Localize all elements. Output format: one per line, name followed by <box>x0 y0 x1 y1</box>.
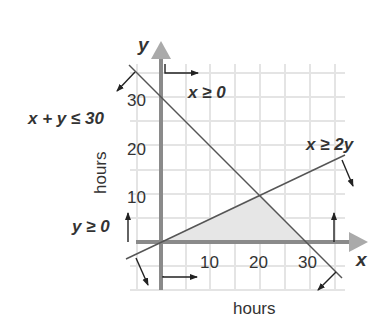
label-x-ge-0: x ≥ 0 <box>187 83 226 102</box>
x-unit-label: hours <box>233 299 276 318</box>
y-tick-20: 20 <box>127 140 146 159</box>
arrow-x2y-icon <box>342 160 353 186</box>
y-unit-label: hours <box>91 151 110 194</box>
arrow-sum-icon <box>117 72 135 91</box>
y-tick-30: 30 <box>127 91 146 110</box>
y-tick-10: 10 <box>127 188 146 207</box>
x-axis-name: x <box>355 249 368 270</box>
y-axis <box>151 41 171 290</box>
x-tick-10: 10 <box>200 253 219 272</box>
arrow-x0-bottom-icon <box>163 276 197 277</box>
inequality-graph: 10 20 30 30 20 10 y x hours hours x + y … <box>0 0 389 336</box>
label-sum-constraint: x + y ≤ 30 <box>27 109 105 128</box>
arrow-x0-top-icon <box>165 64 198 73</box>
x-tick-30: 30 <box>298 253 317 272</box>
arrow-sum-bottom-icon <box>318 272 336 290</box>
y-axis-name: y <box>137 34 150 55</box>
x-tick-20: 20 <box>249 253 268 272</box>
y-axis-arrowhead-icon <box>151 41 171 59</box>
label-x-ge-2y: x ≥ 2y <box>305 135 355 154</box>
label-y-ge-0: y ≥ 0 <box>71 217 110 236</box>
